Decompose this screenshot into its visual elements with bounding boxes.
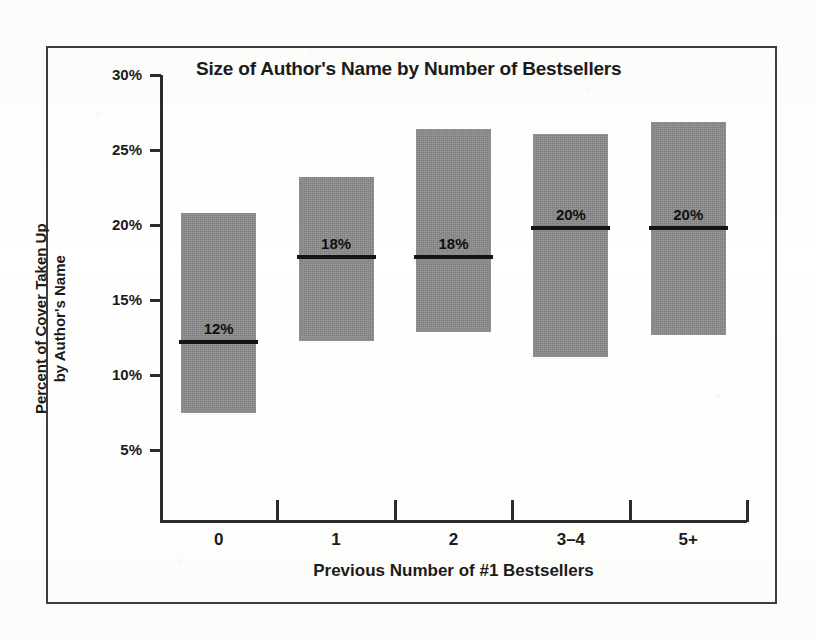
median-line [297,255,376,259]
y-axis-tick-label: 20% [86,216,142,234]
y-axis-tick [150,449,161,452]
x-axis-tick [746,500,749,522]
range-bar[interactable] [299,177,374,341]
x-axis-tick [511,500,514,522]
x-axis-tick [629,500,632,522]
y-axis-tick-label: 15% [86,291,142,309]
median-value-label: 20% [651,206,726,223]
y-axis-tick-label: 10% [86,366,142,384]
y-axis-tick-label: 5% [86,441,142,459]
y-axis-tick [150,149,161,152]
x-axis-tick [394,500,397,522]
x-axis-line [160,520,747,523]
y-axis-tick [150,74,161,77]
figure-page: Size of Author's Name by Number of Bests… [0,0,816,639]
y-axis-tick-label-text: 5% [86,441,142,458]
y-axis-tick-label: 30% [86,66,142,84]
x-axis-category-label: 2 [404,530,504,550]
x-axis-title: Previous Number of #1 Bestsellers [160,561,747,581]
y-axis-title-line2: by Author's Name [51,255,68,382]
y-axis-tick-label-text: 10% [86,366,142,383]
median-value-label: 18% [299,235,374,252]
median-line [531,226,610,230]
y-axis-tick-label-text: 30% [86,66,142,83]
y-axis-tick [150,374,161,377]
x-axis-category-label: 3–4 [521,530,621,550]
y-axis-tick-label-text: 20% [86,216,142,233]
y-axis-tick-label: 25% [86,141,142,159]
chart-plot-area: Size of Author's Name by Number of Bests… [0,0,816,639]
range-bar[interactable] [181,213,256,413]
median-value-label: 12% [181,320,256,337]
y-axis-tick [150,299,161,302]
range-bar[interactable] [533,134,608,358]
x-axis-category-label: 0 [169,530,269,550]
median-line [649,226,728,230]
y-axis-tick [150,224,161,227]
median-value-label: 18% [416,235,491,252]
median-value-label: 20% [533,206,608,223]
y-axis-tick-label-text: 15% [86,291,142,308]
y-axis-tick-label-text: 25% [86,141,142,158]
median-line [414,255,493,259]
x-axis-category-label: 1 [286,530,386,550]
x-axis-tick [276,500,279,522]
y-axis-title-line1: Percent of Cover Taken Up [32,223,49,414]
chart-title: Size of Author's Name by Number of Bests… [196,58,756,80]
range-bar[interactable] [416,129,491,332]
x-axis-category-label: 5+ [638,530,738,550]
median-line [179,340,258,344]
y-axis-title: Percent of Cover Taken Up by Author's Na… [32,169,70,469]
